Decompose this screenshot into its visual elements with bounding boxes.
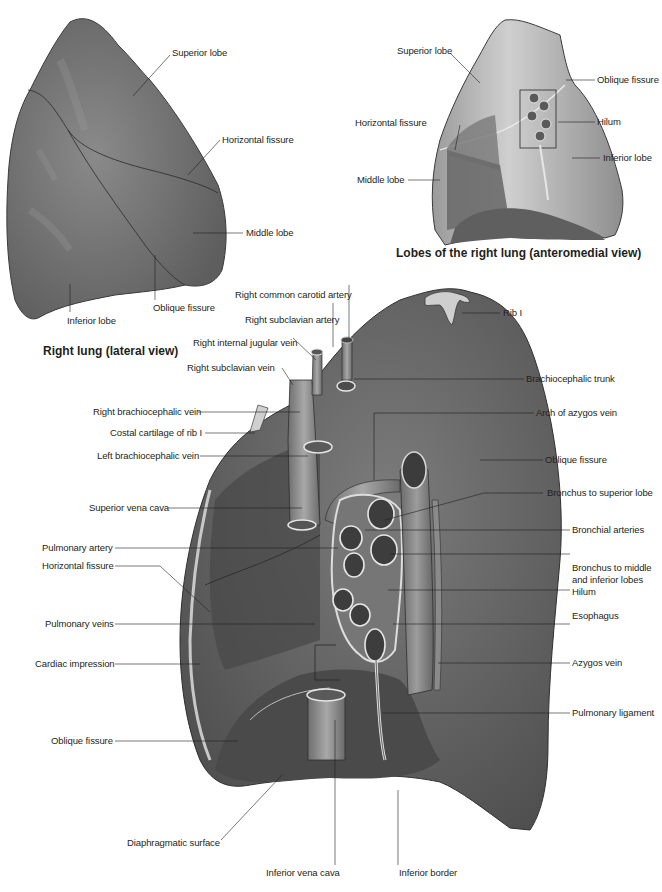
- inferior-vena-cava-label: Inferior vena cava: [266, 867, 340, 878]
- right-subclavian-artery-label: Right subclavian artery: [245, 314, 339, 325]
- azygos-vein-label: Azygos vein: [572, 657, 622, 668]
- bronchial-arteries-label: Bronchial arteries: [572, 524, 644, 535]
- pulmonary-veins-label: Pulmonary veins: [45, 618, 114, 629]
- lateral-superior-lobe-label: Superior lobe: [172, 47, 227, 58]
- anteromedial-view-caption: Lobes of the right lung (anteromedial vi…: [396, 246, 641, 260]
- costal-cartilage-rib1-label: Costal cartilage of rib I: [110, 427, 202, 438]
- lateral-lung-illustration: [7, 19, 226, 319]
- lateral-middle-lobe-label: Middle lobe: [246, 227, 294, 238]
- medial-oblique-fissure-label: Oblique fissure: [51, 735, 113, 746]
- rib1-label: Rib I: [503, 307, 522, 318]
- anteromedial-superior-lobe-label: Superior lobe: [397, 45, 452, 56]
- pulmonary-ligament-label: Pulmonary ligament: [572, 707, 654, 718]
- right-common-carotid-artery-label: Right common carotid artery: [235, 289, 352, 300]
- anteromedial-inferior-lobe-label: Inferior lobe: [603, 152, 652, 163]
- bronchus-middle-inferior-label-line2: and inferior lobes: [572, 574, 643, 585]
- lateral-inferior-lobe-label: Inferior lobe: [67, 315, 116, 326]
- inferior-border-label: Inferior border: [399, 867, 457, 878]
- brachiocephalic-trunk-label: Brachiocephalic trunk: [526, 373, 615, 384]
- lateral-horizontal-fissure-label: Horizontal fissure: [222, 134, 294, 145]
- diaphragmatic-surface-label: Diaphragmatic surface: [127, 837, 220, 848]
- anteromedial-middle-lobe-label: Middle lobe: [357, 174, 405, 185]
- bronchus-superior-lobe-label: Bronchus to superior lobe: [547, 487, 653, 498]
- medial-oblique-fissure-right-label: Oblique fissure: [545, 454, 607, 465]
- superior-vena-cava-label: Superior vena cava: [89, 502, 169, 513]
- illustration-layer: [0, 0, 662, 892]
- lateral-view-caption: Right lung (lateral view): [43, 344, 178, 358]
- medial-hilum-label: Hilum: [572, 586, 596, 597]
- left-brachiocephalic-vein-label: Left brachiocephalic vein: [97, 450, 199, 461]
- bronchus-middle-inferior-label-line1: Bronchus to middle: [572, 562, 652, 573]
- medial-horizontal-fissure-label: Horizontal fissure: [42, 560, 114, 571]
- cardiac-impression-label: Cardiac impression: [35, 658, 115, 669]
- arch-of-azygos-vein-label: Arch of azygos vein: [536, 407, 617, 418]
- right-internal-jugular-vein-label: Right internal jugular vein: [193, 337, 298, 348]
- right-brachiocephalic-vein-label: Right brachiocephalic vein: [93, 406, 201, 417]
- right-subclavian-vein-label: Right subclavian vein: [187, 362, 275, 373]
- anteromedial-hilum-label: Hilum: [597, 116, 621, 127]
- anteromedial-horizontal-fissure-label: Horizontal fissure: [355, 117, 427, 128]
- esophagus-label: Esophagus: [572, 610, 619, 621]
- pulmonary-artery-label: Pulmonary artery: [42, 542, 113, 553]
- lateral-oblique-fissure-label: Oblique fissure: [153, 302, 215, 313]
- anatomy-figure: Superior lobe Horizontal fissure Middle …: [0, 0, 662, 892]
- anteromedial-lung-illustration: [432, 20, 623, 245]
- anteromedial-oblique-fissure-label: Oblique fissure: [597, 74, 659, 85]
